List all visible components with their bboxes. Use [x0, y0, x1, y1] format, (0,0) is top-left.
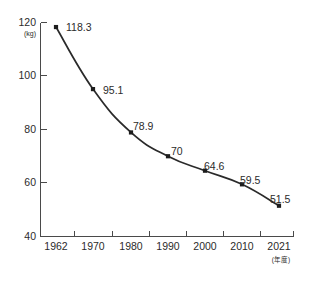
y-tick-label-40: 40	[24, 230, 36, 242]
x-tick-label-1980: 1980	[119, 240, 143, 252]
x-tick-label-1990: 1990	[156, 240, 180, 252]
x-tick-label-1970: 1970	[81, 240, 105, 252]
point-label-2010: 59.5	[240, 174, 261, 186]
x-tick-labels: 1962 1970 1980 1990 2000 2010 2021	[44, 240, 291, 252]
point-label-1990: 70	[171, 145, 183, 157]
y-axis-ticks	[41, 23, 47, 237]
data-point-1990	[166, 154, 170, 158]
point-label-2021: 51.5	[270, 193, 291, 205]
y-tick-label-100: 100	[18, 69, 36, 81]
point-label-1980: 78.9	[133, 120, 154, 132]
point-label-2000: 64.6	[204, 160, 225, 172]
x-tick-label-2000: 2000	[193, 240, 217, 252]
x-tick-label-2021: 2021	[267, 240, 291, 252]
axis-frame	[41, 23, 294, 237]
x-tick-label-2010: 2010	[230, 240, 254, 252]
line-chart: 120 100 80 60 40 (kg) 1962 1970 1980 199…	[0, 0, 312, 284]
y-tick-label-80: 80	[24, 123, 36, 135]
point-label-1962: 118.3	[66, 21, 92, 33]
x-axis-ticks	[75, 231, 294, 237]
y-axis-unit-label: (kg)	[24, 30, 36, 38]
point-value-labels: 118.3 95.1 78.9 70 64.6 59.5 51.5	[66, 21, 291, 205]
chart-canvas: 120 100 80 60 40 (kg) 1962 1970 1980 199…	[0, 0, 312, 284]
x-axis-unit-label: (年度)	[272, 255, 290, 264]
point-label-1970: 95.1	[103, 84, 124, 96]
x-tick-label-1962: 1962	[44, 240, 68, 252]
y-tick-labels: 120 100 80 60 40	[18, 16, 36, 242]
data-point-1970	[91, 87, 95, 91]
y-tick-label-60: 60	[24, 176, 36, 188]
data-point-1962	[54, 25, 58, 29]
y-tick-label-120: 120	[18, 16, 36, 28]
